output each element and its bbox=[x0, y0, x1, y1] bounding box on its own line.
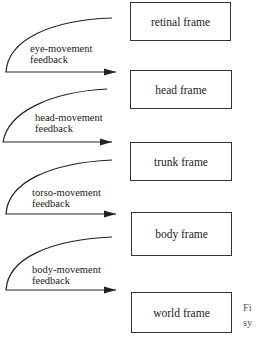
trunk-frame-label: trunk frame bbox=[154, 156, 208, 168]
body-frame-box: body frame bbox=[131, 212, 232, 256]
eye-movement-feedback-label: eye-movement feedback bbox=[30, 43, 92, 65]
torso-movement-feedback-label: torso-movement feedback bbox=[32, 187, 101, 209]
head-frame-box: head frame bbox=[130, 70, 232, 109]
world-frame-label: world frame bbox=[153, 307, 210, 319]
head-movement-feedback-label: head-movement feedback bbox=[35, 112, 103, 134]
head-frame-label: head frame bbox=[155, 84, 206, 96]
trunk-frame-box: trunk frame bbox=[130, 142, 232, 181]
retinal-frame-box: retinal frame bbox=[130, 2, 231, 41]
retinal-frame-label: retinal frame bbox=[151, 16, 210, 28]
figure-caption-fragment: Fi sy bbox=[243, 300, 252, 330]
body-movement-feedback-label: body-movement feedback bbox=[32, 264, 101, 286]
world-frame-box: world frame bbox=[131, 292, 232, 333]
body-frame-label: body frame bbox=[155, 228, 208, 240]
